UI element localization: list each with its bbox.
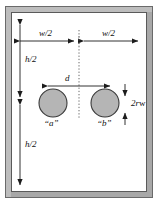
well-label-b: “b” [97, 119, 112, 128]
well-circle-b [91, 89, 119, 117]
well-diameter-label-subscript: w [139, 98, 146, 108]
well-diameter-label-prefix: 2r [131, 98, 139, 108]
well-circle-a [39, 89, 67, 117]
well-label-a: “a” [44, 119, 59, 128]
height-bottom-label: h/2 [25, 140, 37, 149]
well-doublet-diagram: w/2 w/2 h/2 h/2 d 2rw “a” “b” [0, 0, 159, 204]
width-right-label: w/2 [102, 29, 115, 38]
well-diameter-label: 2rw [131, 99, 146, 108]
well-separation-label: d [65, 74, 70, 83]
height-top-label: h/2 [25, 55, 37, 64]
width-left-label: w/2 [39, 29, 52, 38]
